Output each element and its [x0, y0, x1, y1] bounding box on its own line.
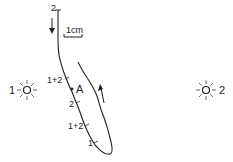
point-a-dot: [71, 88, 74, 91]
mark-tick: [94, 141, 98, 143]
mark-tick: [85, 124, 89, 126]
point-a-label: A: [76, 84, 83, 95]
light-source-2-icon: [196, 80, 216, 100]
scale-bar-label: 1cm: [66, 26, 83, 35]
mark-label-3: 1+2: [68, 122, 83, 131]
mark-label-4: 1: [88, 139, 93, 148]
mark-label-2: 2: [69, 100, 74, 109]
arrow-up-icon: [98, 84, 104, 103]
path-start-label: 2: [51, 4, 56, 13]
mark-label-1: 1+2: [47, 76, 62, 85]
diagram-canvas: [0, 0, 233, 162]
light-source-2-label: 2: [219, 85, 225, 96]
light-source-1-icon: [17, 80, 37, 100]
light-source-1-label: 1: [9, 85, 15, 96]
arrow-down-icon: [49, 18, 55, 34]
